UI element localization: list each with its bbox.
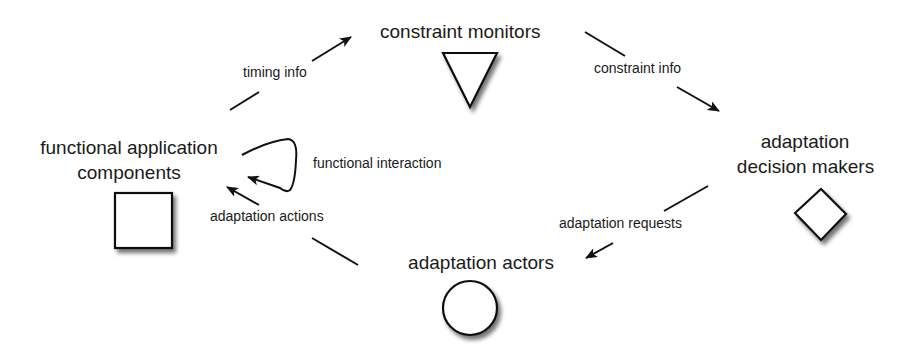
node-label-components-line2: components xyxy=(60,163,198,182)
arrow-adaptation-actions xyxy=(227,187,259,205)
arrow-constraint-info xyxy=(677,87,719,111)
node-label-components-line1: functional application xyxy=(28,138,230,157)
node-label-decision-makers-line2: decision makers xyxy=(718,157,893,176)
loop-functional-interaction xyxy=(242,139,296,191)
node-label-decision-makers-line1: adaptation xyxy=(745,132,865,151)
diamond-icon xyxy=(795,189,846,240)
circle-icon xyxy=(443,281,497,335)
edge-label-timing-info: timing info xyxy=(243,65,307,79)
edge-line-adaptation-requests xyxy=(664,186,708,211)
edge-label-adaptation-actions: adaptation actions xyxy=(210,209,324,223)
arrow-timing-info xyxy=(312,37,351,61)
edge-label-constraint-info: constraint info xyxy=(594,61,681,75)
node-label-adaptation-actors: adaptation actors xyxy=(398,253,564,272)
edge-line-timing-info xyxy=(230,92,259,110)
edge-label-adaptation-requests: adaptation requests xyxy=(559,216,682,230)
edge-label-functional-interaction: functional interaction xyxy=(313,156,441,170)
edge-line-constraint-info xyxy=(585,32,625,56)
square-icon xyxy=(115,193,172,248)
edge-line-adaptation-actions xyxy=(312,238,358,265)
arrow-adaptation-requests xyxy=(586,243,613,258)
triangle-icon xyxy=(443,53,497,107)
node-label-constraint-monitors: constraint monitors xyxy=(380,22,535,41)
